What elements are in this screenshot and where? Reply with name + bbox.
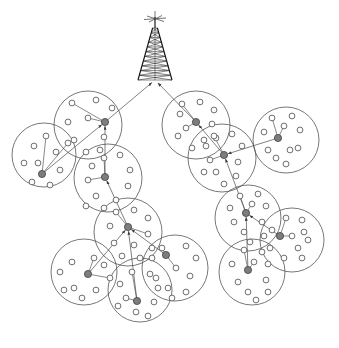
sensor-node bbox=[83, 149, 89, 155]
sensor-node bbox=[295, 245, 301, 251]
sensor-node bbox=[65, 140, 71, 146]
cluster-head bbox=[133, 297, 140, 304]
sensor-node bbox=[241, 229, 247, 235]
sensor-node bbox=[251, 259, 257, 265]
sensor-node bbox=[265, 261, 271, 267]
sensor-node bbox=[147, 271, 153, 277]
sensor-node bbox=[201, 169, 207, 175]
sensor-node bbox=[183, 243, 189, 249]
sensor-node bbox=[229, 131, 235, 137]
sensor-node bbox=[153, 275, 159, 281]
sensor-node bbox=[91, 255, 97, 261]
sensor-node bbox=[267, 245, 273, 251]
sensor-node bbox=[29, 179, 35, 185]
sensor-node bbox=[85, 115, 91, 121]
sensor-node bbox=[193, 255, 199, 261]
sensor-node bbox=[101, 134, 107, 140]
sensor-node bbox=[79, 295, 85, 301]
sensor-node bbox=[109, 105, 115, 111]
sensor-node bbox=[85, 177, 91, 183]
sensor-node bbox=[71, 137, 77, 143]
sensor-node bbox=[111, 240, 117, 246]
sensor-node bbox=[263, 277, 269, 283]
sensor-node bbox=[101, 155, 107, 161]
sensor-node bbox=[289, 113, 295, 119]
sensor-node bbox=[183, 125, 189, 131]
sensor-node bbox=[159, 245, 165, 251]
sensor-node bbox=[187, 273, 193, 279]
sensor-node bbox=[169, 295, 175, 301]
sensor-node bbox=[93, 97, 99, 103]
sensor-node bbox=[273, 155, 279, 161]
sensor-node bbox=[127, 167, 133, 173]
sensor-node bbox=[43, 133, 49, 139]
sensor-node bbox=[107, 223, 113, 229]
sensor-node bbox=[177, 111, 183, 117]
sensor-node bbox=[269, 115, 275, 121]
network-topology-diagram bbox=[0, 0, 339, 348]
sensor-node bbox=[295, 145, 301, 151]
sensor-node bbox=[207, 157, 213, 163]
tower-brace bbox=[145, 56, 167, 61]
sensor-node bbox=[61, 287, 67, 293]
sensor-node bbox=[281, 123, 287, 129]
figure-root bbox=[0, 0, 339, 348]
sensor-node bbox=[65, 119, 71, 125]
sensor-node bbox=[269, 227, 275, 233]
sensor-node bbox=[57, 167, 63, 173]
cluster-head bbox=[162, 251, 169, 258]
sensor-node bbox=[299, 217, 305, 223]
sensor-node bbox=[57, 269, 63, 275]
sensor-node bbox=[131, 207, 137, 213]
sensor-node bbox=[283, 161, 289, 167]
sensor-node bbox=[115, 303, 121, 309]
cluster-head bbox=[244, 266, 251, 273]
sensor-node bbox=[239, 143, 245, 149]
sensor-node bbox=[71, 285, 77, 291]
sensor-node bbox=[301, 229, 307, 235]
sensor-node bbox=[175, 133, 181, 139]
sensor-node bbox=[151, 299, 157, 305]
sensor-node bbox=[165, 285, 171, 291]
sensor-node bbox=[149, 255, 155, 261]
sensor-node bbox=[259, 219, 265, 225]
sensor-node bbox=[211, 133, 217, 139]
sensor-node bbox=[101, 262, 107, 268]
sensor-node bbox=[209, 121, 215, 127]
sensor-node bbox=[119, 253, 125, 259]
sensor-node bbox=[101, 205, 107, 211]
sensor-node bbox=[149, 245, 155, 251]
tower-brace bbox=[145, 52, 164, 57]
sensor-node bbox=[131, 242, 137, 248]
sensor-node bbox=[145, 231, 151, 237]
sensor-node bbox=[289, 233, 295, 239]
tower-brace bbox=[146, 47, 163, 52]
sensor-node bbox=[173, 265, 179, 271]
sensor-node bbox=[21, 160, 27, 166]
sensor-node bbox=[299, 255, 305, 261]
cluster-head bbox=[242, 209, 249, 216]
sensor-node bbox=[47, 182, 53, 188]
cluster-head bbox=[101, 173, 108, 180]
cluster-head bbox=[124, 223, 131, 230]
cluster-boundary bbox=[108, 258, 172, 322]
sensor-node bbox=[197, 99, 203, 105]
sensor-node bbox=[203, 143, 209, 149]
sensor-node bbox=[231, 219, 237, 225]
sensor-node bbox=[145, 215, 151, 221]
sensor-node bbox=[137, 255, 143, 261]
sensor-node bbox=[89, 163, 95, 169]
sensor-node bbox=[255, 191, 261, 197]
sensor-node bbox=[213, 169, 219, 175]
sensor-node bbox=[265, 289, 271, 295]
sensor-node bbox=[261, 129, 267, 135]
sensor-node bbox=[297, 127, 303, 133]
sensor-node bbox=[69, 100, 75, 106]
tower-brace bbox=[143, 56, 165, 61]
sensor-node bbox=[281, 255, 287, 261]
sensor-node bbox=[261, 233, 267, 239]
sensor-node bbox=[211, 107, 217, 113]
sensor-node bbox=[227, 205, 233, 211]
cluster-boundary bbox=[219, 239, 285, 305]
sensor-node bbox=[93, 287, 99, 293]
